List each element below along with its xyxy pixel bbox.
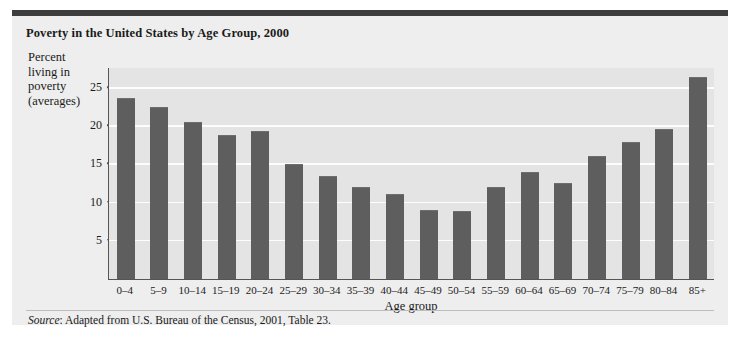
bar (150, 107, 168, 279)
figure-card: Poverty in the United States by Age Grou… (12, 10, 728, 325)
x-axis-tick-label: 45–49 (411, 284, 445, 296)
y-axis-tick-label: 15 (80, 156, 102, 171)
bar (352, 187, 370, 279)
source-text: : Adapted from U.S. Bureau of the Census… (60, 314, 331, 326)
x-axis-tick-label: 75–79 (613, 284, 647, 296)
y-axis-title-line: Percent (28, 50, 106, 65)
x-axis-tick-label: 15–19 (209, 284, 243, 296)
source-note: Source: Adapted from U.S. Bureau of the … (28, 314, 331, 326)
bar (453, 211, 471, 279)
y-axis-tick-label: 20 (80, 118, 102, 133)
bar (689, 77, 707, 279)
y-axis-ticks: 510152025 (74, 68, 102, 280)
x-axis-tick-labels: 0–45–910–1415–1920–2425–2930–3435–3940–4… (108, 284, 714, 296)
bar-series (109, 69, 714, 279)
bar (285, 164, 303, 279)
page-title: Poverty in the United States by Age Grou… (26, 26, 289, 41)
bar (251, 131, 269, 279)
x-axis-tick-label: 5–9 (142, 284, 176, 296)
x-axis-tick-label: 40–44 (377, 284, 411, 296)
bar (420, 210, 438, 279)
x-axis-tick-label: 10–14 (175, 284, 209, 296)
bar (521, 172, 539, 279)
bar (655, 129, 673, 279)
source-divider (26, 310, 714, 311)
x-axis-tick-label: 50–54 (445, 284, 479, 296)
bar (588, 156, 606, 279)
chart-plot (108, 68, 714, 280)
bar (218, 135, 236, 279)
bar (184, 122, 202, 279)
x-axis-tick-label: 70–74 (579, 284, 613, 296)
y-axis-tick-label: 5 (80, 232, 102, 247)
x-axis-tick-label: 0–4 (108, 284, 142, 296)
x-axis-tick-label: 20–24 (243, 284, 277, 296)
x-axis-tick-label: 65–69 (546, 284, 580, 296)
bar (487, 187, 505, 279)
y-axis-tick-label: 25 (80, 80, 102, 95)
x-axis-tick-label: 60–64 (512, 284, 546, 296)
x-axis-tick-label: 25–29 (276, 284, 310, 296)
bar (117, 98, 135, 279)
x-axis-tick-label: 55–59 (478, 284, 512, 296)
y-axis-tick-label: 10 (80, 194, 102, 209)
x-axis-tick-label: 35–39 (344, 284, 378, 296)
bar (386, 194, 404, 279)
plot-area (108, 68, 714, 280)
x-axis-tick-label: 85+ (680, 284, 714, 296)
bar (319, 176, 337, 279)
bar (622, 142, 640, 279)
x-axis-tick-label: 30–34 (310, 284, 344, 296)
x-axis-tick-label: 80–84 (647, 284, 681, 296)
x-axis-title: Age group (108, 299, 714, 314)
header-rule (12, 10, 728, 16)
source-label: Source (28, 314, 60, 326)
bar (554, 183, 572, 279)
